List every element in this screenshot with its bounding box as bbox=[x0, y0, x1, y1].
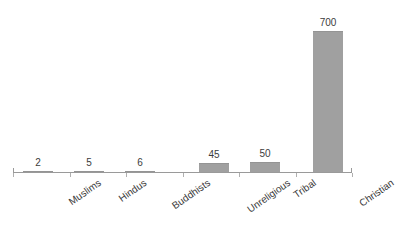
category-label-tribal: Tribal bbox=[291, 177, 317, 200]
value-label-tribal: 50 bbox=[259, 148, 270, 159]
bar-tribal bbox=[250, 162, 280, 172]
category-label-christian: Christian bbox=[357, 177, 396, 209]
x-axis-category-labels: MuslimsHindusBuddhistsUnreligiousTribalC… bbox=[0, 177, 369, 249]
value-label-hindus: 5 bbox=[86, 157, 92, 168]
value-label-unreligious: 45 bbox=[208, 149, 219, 160]
plot-area: 2564550700 bbox=[0, 0, 369, 173]
bar-christian bbox=[313, 31, 343, 172]
category-label-hindus: Hindus bbox=[117, 177, 149, 204]
category-label-unreligious: Unreligious bbox=[245, 177, 292, 215]
value-label-muslims: 2 bbox=[35, 157, 41, 168]
bar-unreligious bbox=[199, 163, 229, 172]
category-label-muslims: Muslims bbox=[67, 177, 103, 207]
value-label-buddhists: 6 bbox=[137, 157, 143, 168]
value-label-christian: 700 bbox=[320, 17, 337, 28]
bars-layer bbox=[0, 0, 369, 172]
category-label-buddhists: Buddhists bbox=[170, 177, 212, 211]
